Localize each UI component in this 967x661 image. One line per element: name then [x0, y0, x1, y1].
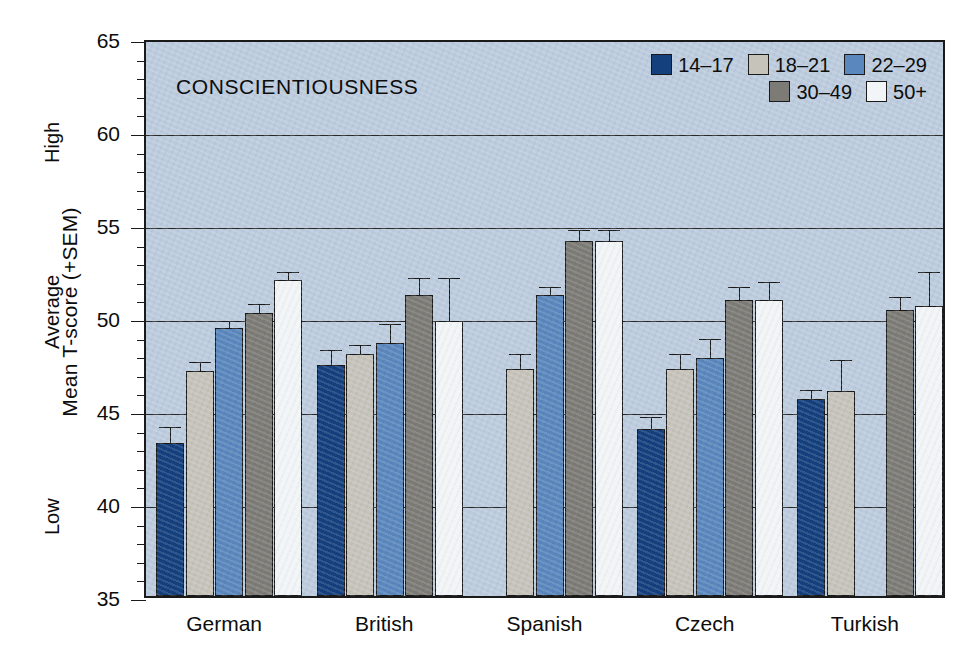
error-bar [449, 278, 450, 321]
y-tick-label-35: 35 [74, 588, 120, 609]
bar[interactable] [215, 328, 243, 596]
bar[interactable] [536, 295, 564, 596]
y-tick-50 [131, 321, 146, 322]
x-label-spanish: Spanish [507, 612, 583, 636]
bar[interactable] [156, 443, 184, 596]
x-label-german: German [186, 612, 262, 636]
y-tick-label-60: 60 [74, 123, 120, 144]
legend-item-22-29[interactable]: 22–29 [844, 54, 927, 75]
legend-item-30-49[interactable]: 30–49 [769, 81, 852, 102]
bar-slot-turkish-50+ [915, 38, 943, 596]
y-tick-49 [137, 340, 146, 341]
error-bar-cap [408, 278, 430, 279]
error-bar [259, 304, 260, 313]
bar-slot-german-14-17 [156, 38, 184, 596]
error-bar-cap [758, 282, 780, 283]
bar[interactable] [696, 358, 724, 596]
y-tick-48 [137, 358, 146, 359]
legend-swatch-icon [844, 54, 865, 75]
y-tick-61 [137, 116, 146, 117]
bar[interactable] [637, 429, 665, 596]
error-bar-cap [248, 304, 270, 305]
bar-slot-british-22-29 [376, 38, 404, 596]
y-tick-59 [137, 154, 146, 155]
bar[interactable] [346, 354, 374, 596]
legend-swatch-icon [748, 54, 769, 75]
y-tick-42 [137, 470, 146, 471]
error-bar-cap [728, 287, 750, 288]
bar-slot-german-22-29 [215, 38, 243, 596]
bar-slot-german-50+ [274, 38, 302, 596]
bar[interactable] [797, 399, 825, 596]
error-bar [841, 360, 842, 392]
y-tick-54 [137, 247, 146, 248]
bar-group-german [156, 42, 304, 596]
bar-slot-turkish-14-17 [797, 38, 825, 596]
error-bar [811, 390, 812, 399]
error-bar [520, 354, 521, 369]
y-tick-60 [131, 135, 146, 136]
y-tick-label-65: 65 [74, 30, 120, 51]
bar-slot-czech-30-49 [725, 38, 753, 596]
bar-slot-turkish-18-21 [827, 38, 855, 596]
legend-item-50+[interactable]: 50+ [866, 81, 927, 102]
y-tick-label-40: 40 [74, 495, 120, 516]
legend-item-14-17[interactable]: 14–17 [651, 54, 734, 75]
y-tick-57 [137, 191, 146, 192]
bar[interactable] [274, 280, 302, 596]
error-bar [200, 362, 201, 371]
conscientiousness-bar-chart: Mean T-score (+SEM) LowAverageHigh 35404… [0, 0, 967, 661]
bar[interactable] [245, 313, 273, 596]
legend-row-2: 30–4950+ [769, 81, 927, 102]
y-tick-label-55: 55 [74, 216, 120, 237]
legend-label: 14–17 [678, 55, 734, 75]
bar[interactable] [666, 369, 694, 596]
bar[interactable] [376, 343, 404, 596]
error-bar [680, 354, 681, 369]
legend-row-1: 14–1718–2122–29 [651, 54, 927, 75]
bar[interactable] [506, 369, 534, 596]
error-bar-cap [640, 417, 662, 418]
error-bar [419, 278, 420, 295]
error-bar [550, 287, 551, 294]
bar-group-british [317, 42, 465, 596]
error-bar [579, 230, 580, 241]
y-tick-41 [137, 488, 146, 489]
error-bar [900, 297, 901, 310]
bar[interactable] [435, 321, 463, 596]
y-tick-35 [131, 600, 146, 601]
legend-label: 50+ [893, 82, 927, 102]
y-tick-51 [137, 302, 146, 303]
legend: 14–1718–2122–2930–4950+ [651, 54, 927, 102]
y-tick-37 [137, 563, 146, 564]
error-bar-cap [800, 390, 822, 391]
chart-title: CONSCIENTIOUSNESS [176, 75, 418, 99]
error-bar-cap [889, 297, 911, 298]
x-label-british: British [355, 612, 413, 636]
bar-slot-british-50+ [435, 38, 463, 596]
bar[interactable] [755, 300, 783, 596]
y-tick-65 [131, 42, 146, 43]
y-tick-64 [137, 61, 146, 62]
y-tick-45 [131, 414, 146, 415]
bar[interactable] [886, 310, 914, 596]
bar-slot-british-30-49 [405, 38, 433, 596]
bar[interactable] [595, 241, 623, 596]
legend-swatch-icon [769, 81, 790, 102]
bar[interactable] [565, 241, 593, 596]
error-bar-cap [830, 360, 852, 361]
bar[interactable] [317, 365, 345, 596]
bar[interactable] [405, 295, 433, 596]
y-tick-55 [131, 228, 146, 229]
legend-item-18-21[interactable]: 18–21 [748, 54, 831, 75]
bar-slot-british-18-21 [346, 38, 374, 596]
x-label-turkish: Turkish [831, 612, 899, 636]
bar[interactable] [827, 391, 855, 596]
bar[interactable] [186, 371, 214, 596]
bar[interactable] [725, 300, 753, 596]
error-bar [390, 324, 391, 343]
legend-swatch-icon [651, 54, 672, 75]
bar-slot-turkish-30-49 [886, 38, 914, 596]
error-bar-cap [568, 230, 590, 231]
bar[interactable] [915, 306, 943, 596]
